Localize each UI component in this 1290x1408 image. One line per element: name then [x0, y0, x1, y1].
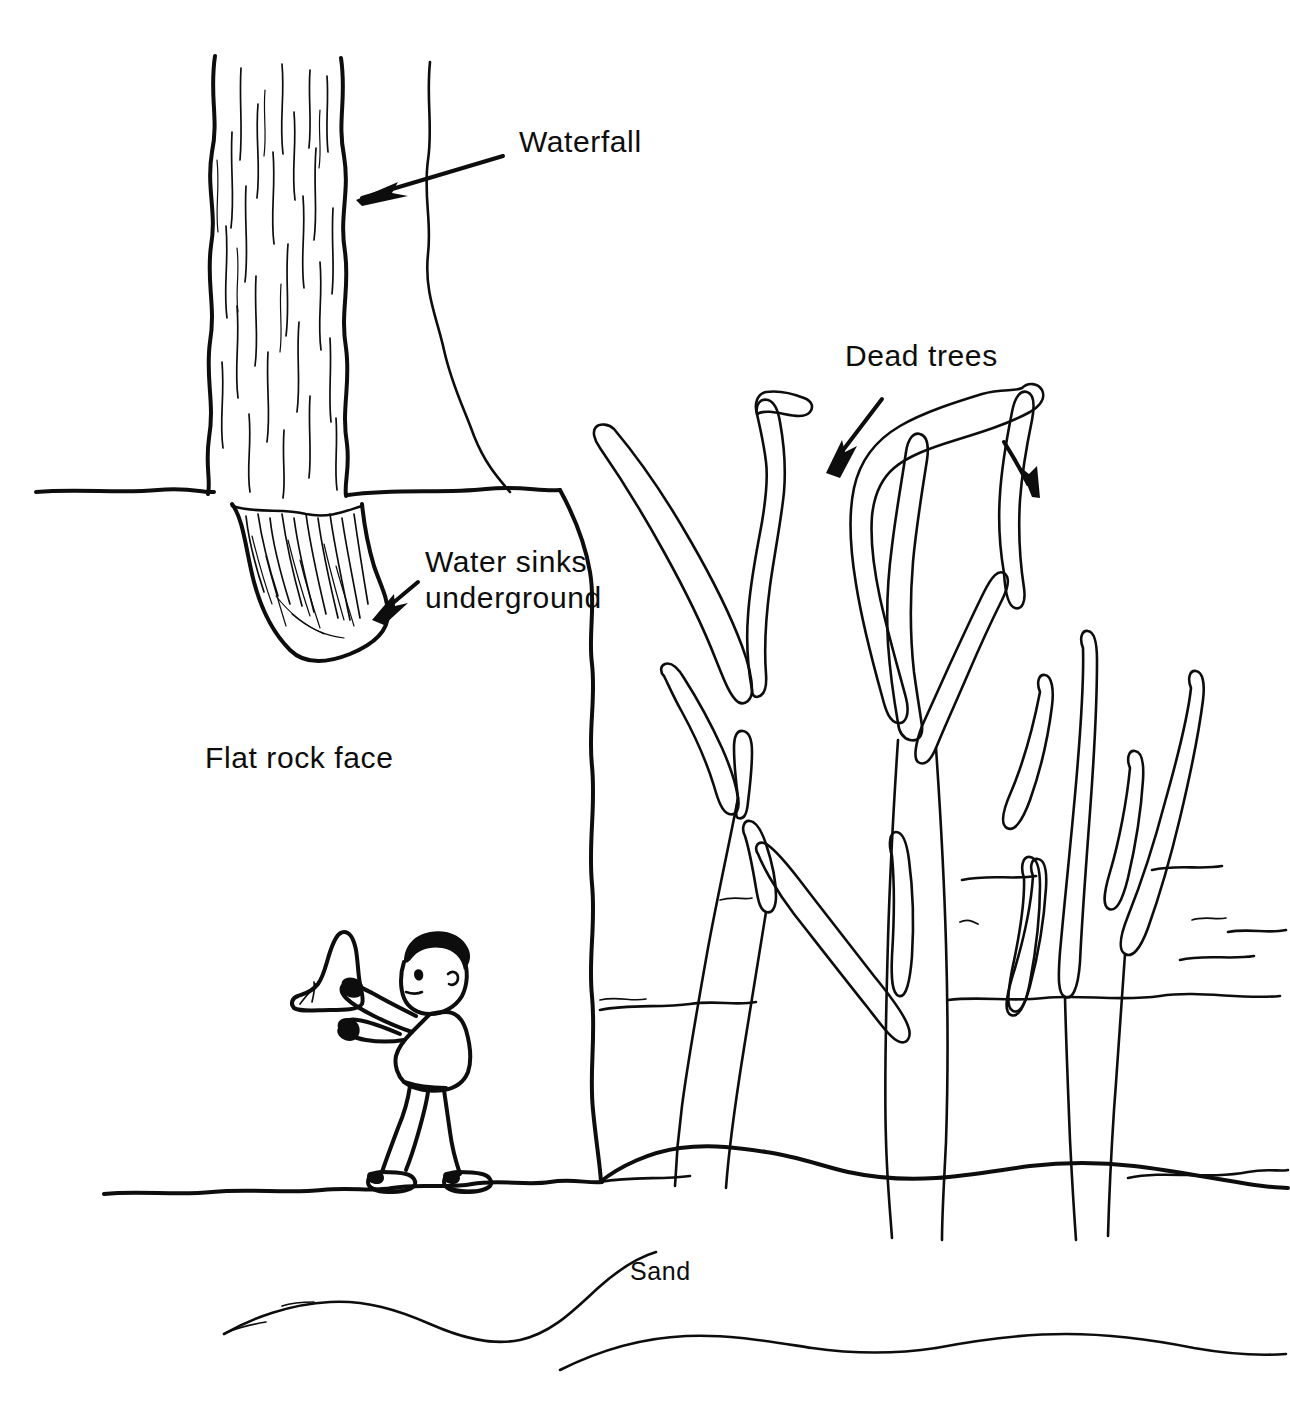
ground-line: [104, 1181, 602, 1194]
person-leg-back: [382, 1086, 410, 1172]
dune-dash-3: [1192, 918, 1226, 920]
tree-left-branch-upper: [594, 425, 752, 704]
waterfall-left-edge: [208, 56, 215, 494]
person-head: [401, 960, 467, 1014]
tree-left-trunk-left: [675, 798, 738, 1186]
person-torso: [395, 1012, 470, 1091]
person-mouth: [406, 992, 422, 994]
dune-line-1: [600, 1002, 756, 1010]
pool-hatching: [246, 514, 368, 638]
label-water-sinks-line2: underground: [425, 581, 602, 614]
dune-dash-2: [960, 920, 978, 924]
tree-left-branch-mid: [747, 400, 785, 697]
waterfall-group: [208, 56, 348, 498]
illustration-canvas: Waterfall Water sinks underground Flat r…: [0, 0, 1290, 1408]
tree-center-trunk-left: [885, 740, 898, 1238]
dead-tree-right: [1003, 631, 1204, 1240]
dead-trees-arrow2-head: [1020, 466, 1040, 498]
person-eye: [414, 969, 423, 980]
dead-trees-arrow1-head: [826, 440, 857, 478]
tree-center-upper-trunk: [887, 434, 928, 741]
tree-right-fork-right: [1121, 671, 1204, 955]
tree-center-trunk-right: [936, 748, 948, 1240]
label-waterfall: Waterfall: [519, 125, 642, 158]
cliff-crack-line: [426, 62, 510, 492]
label-water-sinks-line1: Water sinks: [425, 545, 587, 578]
tree-right-trunk-right: [1108, 954, 1125, 1236]
sand-contour-3: [936, 1334, 1286, 1355]
tree-right-fork-left: [1003, 675, 1053, 829]
rock-ledge-top: [348, 488, 560, 495]
tree-left-branch-hook: [756, 391, 812, 416]
dune-line-8: [1180, 956, 1254, 960]
dune-dash-1: [720, 898, 752, 900]
cliff-top-edge: [36, 489, 214, 492]
person-leg-front: [444, 1090, 460, 1174]
label-dead-trees: Dead trees: [845, 339, 998, 372]
waterfall-streaks: [217, 64, 337, 498]
person-figure: [292, 931, 491, 1192]
sand-contour-1: [224, 1252, 656, 1342]
tree-right-trunk-left: [1065, 997, 1076, 1240]
label-sand: Sand: [630, 1257, 691, 1285]
person-leg-inner: [406, 1092, 428, 1170]
dune-line-2: [948, 994, 1280, 1000]
tree-center-spike-left: [890, 832, 913, 996]
dune-line-7: [1228, 930, 1286, 932]
carried-rock: [292, 932, 363, 1011]
dead-tree-center: [756, 384, 1043, 1240]
tree-right-mid-spike: [1105, 751, 1144, 910]
tree-right-stem: [1059, 631, 1097, 998]
water-sinks-arrow-head: [372, 594, 408, 625]
dune-line-6: [1152, 866, 1222, 870]
tree-center-right-branch: [915, 572, 1007, 763]
label-flat-rock-face: Flat rock face: [205, 741, 393, 774]
person-hair: [404, 931, 470, 970]
pool-top-lip: [232, 506, 362, 515]
rock-face-crack: [600, 999, 646, 1000]
water-sink-pool: [232, 504, 388, 661]
sand-contour-2: [560, 1336, 936, 1370]
dead-tree-left: [594, 391, 812, 1188]
waterfall-right-edge: [341, 58, 348, 496]
person-ear: [448, 972, 458, 985]
labels-group: Waterfall Water sinks underground Flat r…: [205, 125, 998, 1285]
